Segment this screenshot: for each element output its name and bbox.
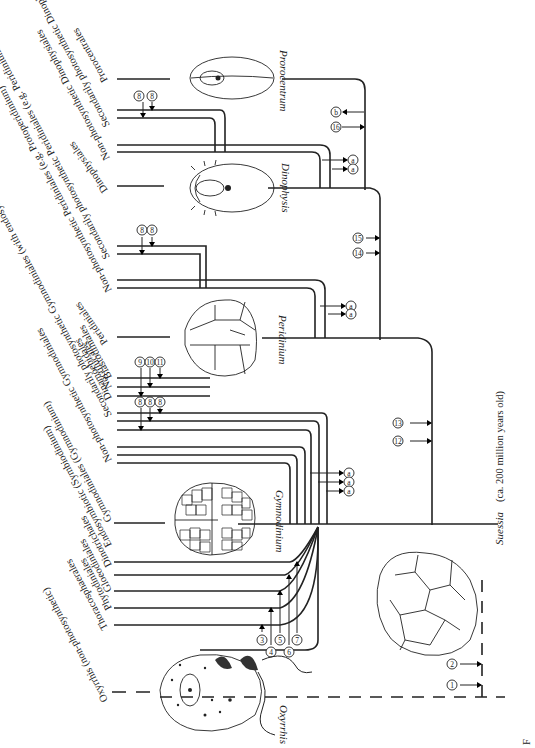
svg-text:4: 4 bbox=[269, 648, 273, 657]
svg-text:1: 1 bbox=[450, 681, 454, 690]
tip-lines bbox=[112, 79, 290, 692]
genus-dinophysis: Dinophysis bbox=[280, 162, 292, 213]
svg-text:b: b bbox=[334, 108, 338, 117]
svg-text:15: 15 bbox=[354, 234, 362, 243]
marker-6: 6 bbox=[284, 574, 294, 657]
svg-text:8: 8 bbox=[148, 398, 152, 407]
marker-11: 11 bbox=[155, 357, 165, 379]
phylogeny-diagram: Prorocentrales Secondarily photosyntheti… bbox=[0, 0, 535, 748]
illustration-prorocentrum bbox=[190, 57, 274, 99]
marker-8: 8 bbox=[145, 397, 155, 422]
marker-7: 7 bbox=[292, 561, 302, 645]
svg-text:10: 10 bbox=[146, 358, 154, 367]
svg-text:8: 8 bbox=[150, 92, 154, 101]
svg-text:8: 8 bbox=[138, 398, 142, 407]
genus-peridinium: Peridinium bbox=[277, 314, 289, 365]
taxon-labels: Prorocentrales Secondarily photosyntheti… bbox=[0, 0, 115, 704]
genus-suessia: Suessia bbox=[493, 512, 505, 546]
marker-8: 8 bbox=[155, 397, 165, 414]
svg-text:14: 14 bbox=[354, 249, 362, 258]
svg-text:9: 9 bbox=[138, 358, 142, 367]
marker-3: 3 bbox=[257, 624, 267, 645]
suessia-age-caption: (ca. 200 million years old) bbox=[494, 390, 506, 502]
svg-text:8: 8 bbox=[158, 398, 162, 407]
marker-8: 8 bbox=[135, 397, 145, 431]
svg-text:5: 5 bbox=[278, 636, 282, 645]
illustration-peridinium bbox=[185, 300, 257, 376]
marker-a-group: a a bbox=[322, 155, 358, 174]
marker-10: 10 bbox=[145, 357, 155, 388]
genus-gymnodinium: Gymnodinium bbox=[274, 490, 286, 552]
marker-13: 13 bbox=[393, 418, 432, 428]
svg-text:7: 7 bbox=[295, 636, 299, 645]
svg-text:13: 13 bbox=[394, 419, 402, 428]
svg-text:3: 3 bbox=[260, 636, 264, 645]
illustration-suessia bbox=[377, 552, 478, 655]
svg-text:2: 2 bbox=[450, 660, 454, 669]
marker-5: 5 bbox=[275, 590, 285, 645]
svg-text:6: 6 bbox=[287, 648, 291, 657]
caption-fragment: F bbox=[521, 739, 532, 745]
marker-4: 4 bbox=[266, 607, 276, 657]
marker-14: 14 bbox=[353, 248, 380, 258]
svg-text:12: 12 bbox=[394, 437, 402, 446]
marker-16: 16 bbox=[331, 122, 365, 132]
illustration-gymnodinium bbox=[175, 483, 255, 555]
marker-1: 1 bbox=[447, 680, 482, 690]
marker-8: 8 bbox=[147, 225, 157, 247]
marker-2: 2 bbox=[447, 659, 482, 669]
tree-branches bbox=[160, 79, 505, 700]
svg-text:8: 8 bbox=[140, 226, 144, 235]
svg-text:8: 8 bbox=[137, 92, 141, 101]
marker-b: b bbox=[331, 107, 364, 117]
genus-oxyrrhis: Oxyrrhis bbox=[278, 705, 290, 744]
svg-text:16: 16 bbox=[332, 123, 340, 132]
illustration-dinophysis bbox=[190, 160, 274, 216]
marker-8: 8 bbox=[147, 91, 157, 111]
marker-8: 8 bbox=[137, 225, 147, 255]
marker-8: 8 bbox=[134, 91, 146, 118]
svg-text:8: 8 bbox=[150, 226, 154, 235]
svg-text:11: 11 bbox=[156, 358, 163, 367]
marker-a-group: a a a bbox=[310, 468, 354, 496]
marker-15: 15 bbox=[353, 233, 380, 243]
genus-prorocentrum: Prorocentrum bbox=[278, 49, 290, 112]
marker-12: 12 bbox=[393, 436, 432, 446]
marker-9: 9 bbox=[135, 357, 145, 397]
